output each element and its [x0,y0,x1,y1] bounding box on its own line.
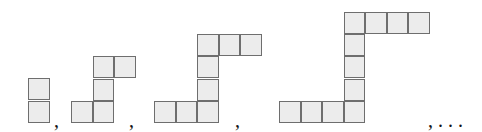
square-cell [197,79,219,101]
comma-separator: , [235,110,240,130]
square-cell [365,12,387,34]
square-cell [71,101,93,123]
square-cell [240,34,262,56]
square-cell [344,101,366,123]
square-cell [344,79,366,101]
square-cell [93,56,115,78]
square-cell [28,78,50,100]
square-cell [93,79,115,101]
square-cell [219,34,241,56]
square-cell [408,12,430,34]
square-cell [28,101,50,123]
square-cell [197,56,219,78]
comma-separator: , [54,110,59,130]
square-cell [154,101,176,123]
square-cell [176,101,198,123]
square-cell [344,12,366,34]
ellipsis-separator: , . . . [428,110,463,130]
comma-separator: , [129,110,134,130]
square-cell [279,101,301,123]
square-cell [114,56,136,78]
square-cell [387,12,409,34]
square-cell [344,34,366,56]
square-cell [93,101,115,123]
square-cell [197,101,219,123]
square-cell [344,56,366,78]
square-cell [322,101,344,123]
square-cell [301,101,323,123]
square-cell [197,34,219,56]
